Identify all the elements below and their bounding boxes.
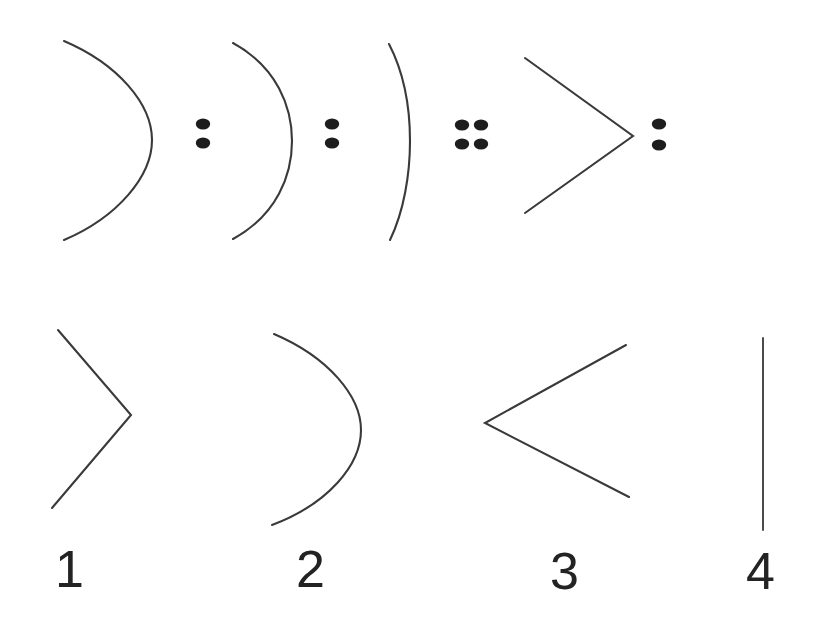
separator-four-dots xyxy=(455,119,488,149)
puzzle-canvas: 1 2 3 4 xyxy=(0,0,821,636)
option-label-1[interactable]: 1 xyxy=(55,543,84,595)
sequence-arc-shallow xyxy=(389,44,410,240)
option-shape-1-chevron-right[interactable] xyxy=(52,330,131,508)
sequence-chevron-right xyxy=(525,58,633,213)
option-label-4[interactable]: 4 xyxy=(746,545,775,597)
shapes-layer xyxy=(0,0,821,636)
answer-options-row xyxy=(52,330,763,530)
separator-two-dots-1 xyxy=(196,118,210,148)
sequence-row xyxy=(64,41,666,240)
sequence-arc-medium xyxy=(233,43,292,239)
option-shape-2-arc-right[interactable] xyxy=(272,334,361,525)
separator-two-dots-3 xyxy=(652,118,666,150)
sequence-arc-deep xyxy=(64,41,152,240)
option-shape-3-chevron-left[interactable] xyxy=(485,345,629,497)
option-label-3[interactable]: 3 xyxy=(550,545,579,597)
separator-two-dots-2 xyxy=(325,118,339,148)
option-label-2[interactable]: 2 xyxy=(296,543,325,595)
